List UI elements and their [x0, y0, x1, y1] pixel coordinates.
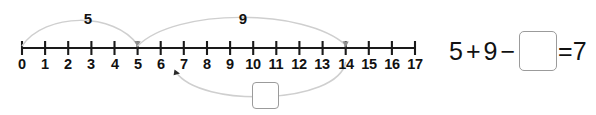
tick-label-5: 5 — [127, 57, 149, 71]
equation-minus-operator: − — [500, 39, 515, 64]
tick-label-6: 6 — [150, 57, 172, 71]
number-line-answer-box[interactable] — [252, 82, 279, 109]
tick-label-8: 8 — [196, 57, 218, 71]
number-line-worksheet: 0 1 2 3 4 5 6 7 8 9 10 11 12 13 14 15 16… — [0, 0, 596, 115]
tick-label-11: 11 — [265, 57, 287, 71]
equation-answer-box[interactable] — [519, 31, 557, 71]
equation-operand-2: 9 — [484, 39, 498, 64]
tick-label-0: 0 — [11, 57, 33, 71]
tick-label-14: 14 — [335, 57, 357, 71]
equation-plus-operator: + — [466, 39, 481, 64]
tick-label-12: 12 — [288, 57, 310, 71]
tick-label-10: 10 — [242, 57, 264, 71]
tick-label-3: 3 — [80, 57, 102, 71]
equation-operand-1: 5 — [449, 39, 463, 64]
tick-label-7: 7 — [173, 57, 195, 71]
tick-label-2: 2 — [57, 57, 79, 71]
tick-label-13: 13 — [311, 57, 333, 71]
equation-equals-sign: = — [558, 39, 573, 64]
tick-label-15: 15 — [358, 57, 380, 71]
equation-result: 7 — [573, 39, 587, 64]
tick-label-4: 4 — [104, 57, 126, 71]
number-line-figure: 0 1 2 3 4 5 6 7 8 9 10 11 12 13 14 15 16… — [0, 0, 430, 115]
tick-label-9: 9 — [219, 57, 241, 71]
tick-label-17: 17 — [404, 57, 426, 71]
tick-label-1: 1 — [34, 57, 56, 71]
equation: 5 + 9 − = 7 — [449, 28, 587, 74]
hop-label-add-9: 9 — [231, 11, 255, 27]
tick-label-16: 16 — [381, 57, 403, 71]
hop-label-add-5: 5 — [76, 11, 100, 27]
hop-arrowhead-add-9 — [343, 41, 349, 47]
